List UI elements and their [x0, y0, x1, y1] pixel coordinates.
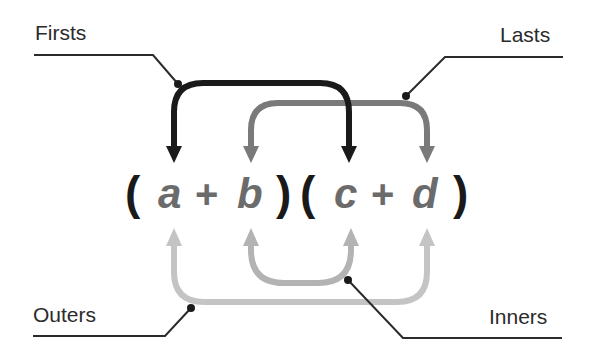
inners-label: Inners: [489, 306, 547, 327]
lasts-arrow: [243, 103, 435, 163]
lasts-label: Lasts: [500, 24, 550, 45]
binomial-product-expression: ( a + b ) ( c + d ): [0, 170, 596, 220]
firsts-label: Firsts: [35, 22, 86, 43]
outers-arrow: [166, 228, 435, 302]
variable-c: c: [334, 173, 357, 215]
close-paren-1: ): [276, 170, 291, 216]
close-paren-2: ): [453, 170, 468, 216]
open-paren-1: (: [125, 170, 140, 216]
variable-a: a: [158, 173, 181, 215]
variable-d: d: [412, 173, 438, 215]
plus-sign-2: +: [371, 174, 394, 214]
firsts-arrow: [166, 83, 357, 163]
firsts-leader-line: [34, 55, 182, 88]
lasts-leader-line: [402, 57, 563, 100]
outers-label: Outers: [33, 304, 96, 325]
plus-sign-1: +: [195, 174, 218, 214]
inners-arrow: [243, 228, 359, 283]
variable-b: b: [237, 173, 263, 215]
open-paren-2: (: [300, 170, 315, 216]
